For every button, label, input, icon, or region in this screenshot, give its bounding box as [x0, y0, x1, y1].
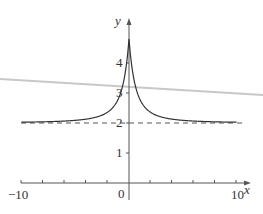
origin-label: 0: [118, 186, 125, 201]
x-axis: [21, 180, 251, 186]
x-min-label: −10: [8, 187, 28, 202]
y-tick-1: 1: [116, 145, 123, 160]
x-max-label: 10: [231, 187, 244, 202]
y-tick-2: 2: [116, 115, 123, 130]
y-axis-label: y: [113, 13, 121, 28]
x-axis-label: x: [243, 182, 250, 197]
overlay-line: [0, 79, 263, 95]
y-tick-4: 4: [116, 55, 123, 70]
chart: −10 0 10 x y 1 2 3 4: [0, 0, 263, 214]
y-tick-3: 3: [116, 85, 123, 100]
